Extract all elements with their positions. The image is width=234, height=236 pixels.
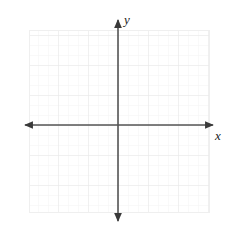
coordinate-plane-svg xyxy=(0,0,234,236)
grid-group xyxy=(29,30,210,213)
x-axis-label: x xyxy=(215,129,221,142)
grid-major-lines xyxy=(29,30,210,213)
y-axis-label: y xyxy=(124,13,130,26)
coordinate-plane-figure: y x xyxy=(0,0,234,236)
